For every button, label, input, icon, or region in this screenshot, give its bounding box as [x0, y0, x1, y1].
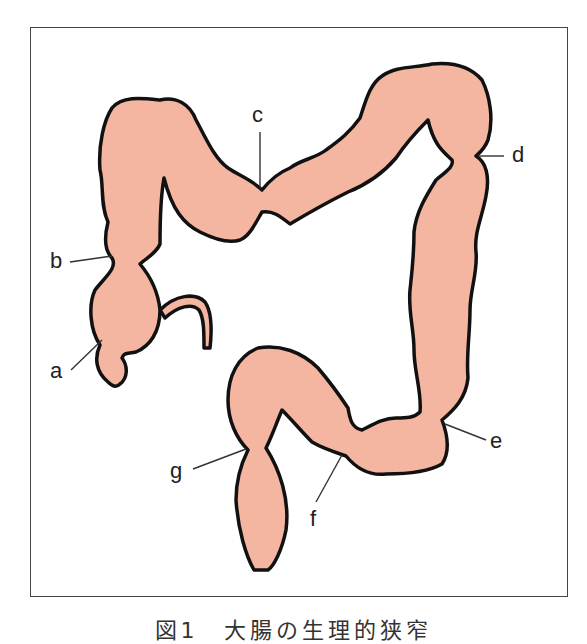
label-g: g	[170, 460, 182, 482]
label-d: d	[512, 144, 524, 166]
label-b: b	[50, 250, 62, 272]
label-a: a	[50, 360, 62, 382]
leader-f	[316, 455, 342, 502]
figure-caption: 図1 大腸の生理的狭窄	[0, 612, 587, 644]
leader-g	[193, 449, 246, 469]
leader-e	[445, 424, 486, 440]
label-f: f	[310, 508, 316, 530]
label-c: c	[252, 104, 263, 126]
label-e: e	[490, 430, 502, 452]
colon-body	[91, 64, 491, 570]
appendix	[160, 296, 211, 348]
leader-b	[70, 256, 112, 262]
